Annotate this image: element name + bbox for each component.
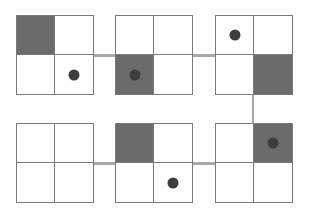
grid-cell <box>17 163 55 202</box>
grid-cell <box>254 163 292 202</box>
dot-marker <box>268 138 279 149</box>
grid-cell <box>17 16 55 55</box>
grid-cell <box>154 124 192 163</box>
grid-cell <box>17 124 55 163</box>
dot-marker <box>69 69 80 80</box>
grid-1 <box>16 15 94 95</box>
grid-5 <box>115 123 193 203</box>
grid-4 <box>215 123 293 203</box>
grid-cell <box>154 16 192 55</box>
grid-cell <box>254 16 292 55</box>
grid-cell <box>116 163 154 202</box>
dot-marker <box>229 30 240 41</box>
grid-cell <box>116 16 154 55</box>
grid-cell <box>216 163 254 202</box>
grid-cell <box>216 124 254 163</box>
grid-cell <box>55 16 93 55</box>
grid-cell <box>216 55 254 94</box>
grid-cell <box>116 55 154 94</box>
dot-marker <box>129 69 140 80</box>
connector-1-2 <box>94 54 116 57</box>
grid-3 <box>215 15 293 95</box>
grid-cell <box>254 124 292 163</box>
grid-2 <box>115 15 193 95</box>
grid-cell <box>216 16 254 55</box>
grid-cell <box>55 163 93 202</box>
grid-6 <box>16 123 94 203</box>
connector-5-6 <box>94 162 116 165</box>
grid-cell <box>116 124 154 163</box>
dot-marker <box>168 177 179 188</box>
grid-cell <box>55 55 93 94</box>
grid-cell <box>254 55 292 94</box>
connector-2-3 <box>193 54 216 57</box>
connector-3-4 <box>252 94 254 124</box>
grid-cell <box>154 55 192 94</box>
grid-cell <box>17 55 55 94</box>
grid-cell <box>154 163 192 202</box>
connector-4-5 <box>193 162 216 165</box>
grid-cell <box>55 124 93 163</box>
